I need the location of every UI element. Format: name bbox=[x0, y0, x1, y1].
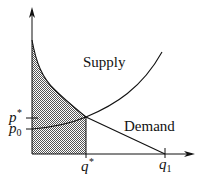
shaded-surplus-region bbox=[32, 40, 86, 154]
p-zero-label: p0 bbox=[8, 120, 22, 138]
supply-demand-diagram: Supply Demand p* p0 q* q1 bbox=[0, 0, 207, 181]
demand-label: Demand bbox=[124, 118, 175, 134]
q-one-label: q1 bbox=[159, 156, 172, 174]
supply-label: Supply bbox=[83, 54, 126, 70]
q-star-label: q* bbox=[81, 156, 94, 174]
